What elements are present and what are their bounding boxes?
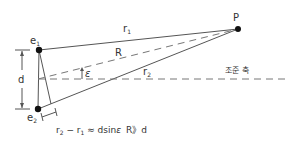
diagram-canvas: e1 e2 P r1 R r2 ε d 조준 축 r2 − r1 ≈ dsinε… — [0, 0, 296, 143]
e1-point — [36, 47, 42, 53]
d-arrow-up-icon — [20, 51, 24, 56]
r2-line — [38, 29, 238, 109]
e2-point — [35, 106, 41, 112]
antenna-geometry-diagram: e1 e2 P r1 R r2 ε d 조준 축 r2 − r1 ≈ dsinε… — [0, 0, 296, 143]
r2-label: r2 — [143, 66, 151, 78]
epsilon-arrowhead-icon — [80, 67, 84, 71]
epsilon-label: ε — [85, 68, 91, 79]
e2-label: e2 — [27, 112, 37, 124]
P-point — [235, 26, 241, 32]
pathdiff-dim-line — [42, 112, 56, 117]
r1-line — [39, 29, 238, 50]
r1-label: r1 — [123, 23, 131, 35]
R-label: R — [115, 47, 122, 58]
path-difference-formula: r2 − r1 ≈ dsinε — [56, 125, 121, 136]
d-arrow-down-icon — [20, 103, 24, 108]
d-label: d — [18, 74, 24, 85]
aiming-axis-label: 조준 축 — [225, 66, 249, 75]
far-field-condition: R》d — [126, 125, 147, 135]
e1-label: e1 — [30, 35, 40, 47]
P-label: P — [233, 12, 239, 23]
path-difference-perpendicular — [39, 50, 51, 104]
R-dashed-line — [38, 29, 238, 79]
